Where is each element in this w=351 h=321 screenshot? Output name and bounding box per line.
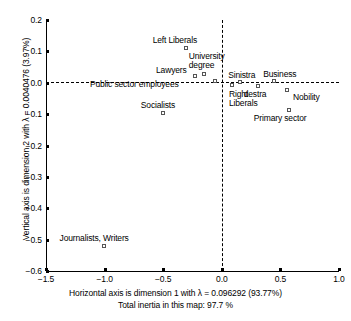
y-axis-tick (46, 207, 49, 210)
data-point-marker (102, 244, 106, 248)
y-axis-tick-label: 0.1 (30, 46, 42, 56)
y-axis-title: Vertical axis is dimension 2 with λ = 0.… (21, 9, 31, 269)
x-axis-tick-label: −1.0 (96, 274, 112, 284)
x-axis-tick-label: −0.5 (155, 274, 171, 284)
y-axis-tick-label: 0.0 (30, 78, 42, 88)
x-axis-tick-label: 1.0 (333, 274, 345, 284)
data-point-label: Journalists, Writers (60, 234, 129, 244)
data-point-marker (193, 74, 197, 78)
data-point-marker (161, 111, 165, 115)
data-point-label: Public sector employees (90, 80, 179, 90)
x-axis-subtitle-total-inertia: Total inertia in this map: 97.7 % (0, 300, 351, 310)
x-axis-tick-label: 0.0 (216, 274, 228, 284)
correspondence-analysis-chart: −1.5−1.0−0.50.00.51.00.20.10.0−0.1−0.2−0… (0, 0, 351, 321)
data-point-label: Sinistra (228, 71, 255, 81)
x-axis-title: Horizontal axis is dimension 1 with λ = … (0, 288, 351, 298)
y-axis-tick-label: 0.2 (30, 15, 42, 25)
data-point-marker (285, 88, 289, 92)
data-point-marker (213, 79, 217, 83)
x-axis-tick (279, 268, 282, 271)
x-axis-tick (104, 268, 107, 271)
y-axis-tick (46, 19, 49, 22)
data-point-label: destra (244, 90, 267, 100)
y-axis-tick (46, 176, 49, 179)
x-axis-tick (221, 268, 224, 271)
data-point-label: Nobility (293, 93, 320, 103)
data-point-marker (287, 108, 291, 112)
x-axis-tick (338, 268, 341, 271)
data-point-label: Lawyers (156, 66, 187, 76)
data-point-marker (272, 79, 276, 83)
data-point-label: Business (263, 70, 296, 80)
y-axis-tick (46, 50, 49, 53)
x-axis-tick-label: 0.5 (275, 274, 287, 284)
y-axis-tick (46, 270, 49, 273)
data-point-marker (202, 72, 206, 76)
x-axis-line (46, 271, 339, 272)
y-axis-tick (46, 82, 49, 85)
y-axis-tick (46, 113, 49, 116)
x-axis-tick (162, 268, 165, 271)
data-point-marker (184, 46, 188, 50)
data-point-marker (238, 80, 242, 84)
data-point-label: Primary sector (254, 114, 307, 124)
y-axis-tick (46, 239, 49, 242)
data-point-label: Socialists (141, 101, 175, 111)
data-point-marker (230, 83, 234, 87)
y-axis-tick (46, 145, 49, 148)
data-point-label: University degree (189, 52, 225, 71)
data-point-marker (256, 84, 260, 88)
data-point-label: Left Liberals (153, 36, 197, 46)
